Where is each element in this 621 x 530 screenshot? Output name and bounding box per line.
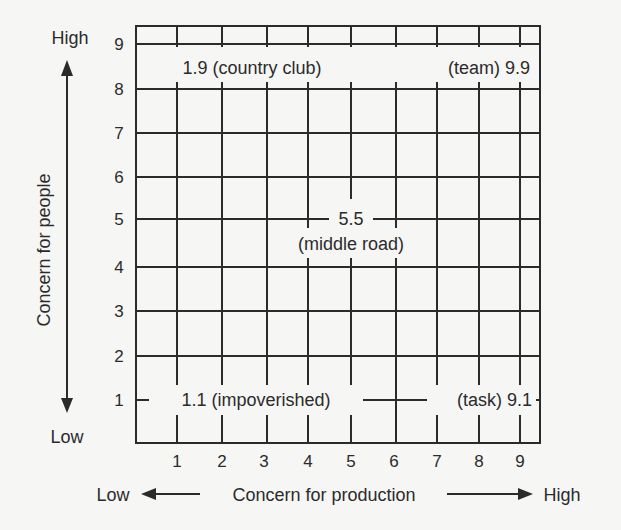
y-tick: 4 xyxy=(114,258,123,277)
arrow-right-icon xyxy=(518,488,533,500)
x-low-label: Low xyxy=(96,485,130,505)
x-tick: 3 xyxy=(259,452,268,471)
y-tick: 8 xyxy=(114,80,123,99)
x-tick-labels: 1 2 3 4 5 6 7 8 9 xyxy=(172,452,524,471)
middle-road-name: (middle road) xyxy=(298,234,404,254)
country-club-label: 1.9 (country club) xyxy=(182,58,321,78)
y-tick: 1 xyxy=(114,391,123,410)
y-low-label: Low xyxy=(50,427,84,447)
x-tick: 8 xyxy=(474,452,483,471)
impoverished-label: 1.1 (impoverished) xyxy=(181,390,330,410)
arrow-left-icon xyxy=(141,488,156,500)
x-tick: 9 xyxy=(515,452,524,471)
task-label: (task) 9.1 xyxy=(457,390,532,410)
y-tick: 2 xyxy=(114,347,123,366)
x-tick: 5 xyxy=(346,452,355,471)
x-tick: 6 xyxy=(389,452,398,471)
y-tick-labels: 9 8 7 6 5 4 3 2 1 xyxy=(114,35,123,410)
x-tick: 4 xyxy=(303,452,312,471)
y-tick: 7 xyxy=(114,124,123,143)
arrow-up-icon xyxy=(61,60,73,76)
x-tick: 7 xyxy=(432,452,441,471)
y-axis-title: Concern for people xyxy=(34,173,54,326)
x-tick: 2 xyxy=(217,452,226,471)
y-tick: 3 xyxy=(114,302,123,321)
y-tick: 5 xyxy=(114,210,123,229)
y-tick: 6 xyxy=(114,168,123,187)
managerial-grid-diagram: 9 8 7 6 5 4 3 2 1 1 2 3 4 5 6 7 8 9 High… xyxy=(0,0,621,530)
team-label: (team) 9.9 xyxy=(448,58,530,78)
middle-road-code: 5.5 xyxy=(338,209,363,229)
arrow-down-icon xyxy=(61,398,73,413)
x-tick: 1 xyxy=(172,452,181,471)
y-tick: 9 xyxy=(114,35,123,54)
x-axis-title: Concern for production xyxy=(232,485,415,505)
x-high-label: High xyxy=(543,485,580,505)
y-high-label: High xyxy=(51,28,88,48)
